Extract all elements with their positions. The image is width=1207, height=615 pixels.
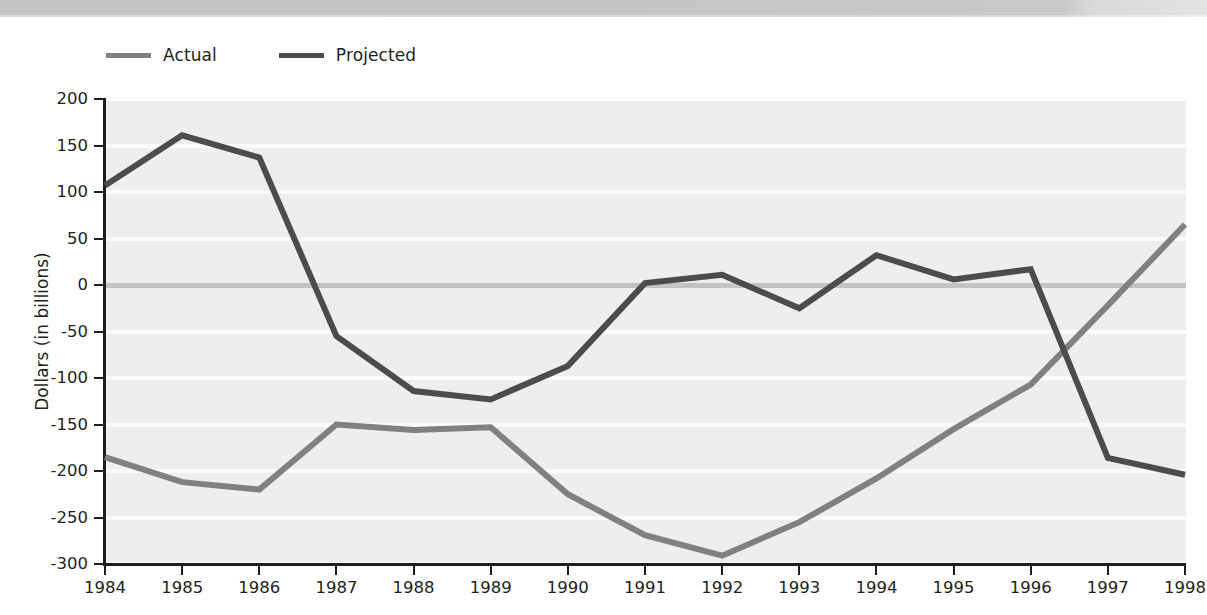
series-layer	[0, 0, 1207, 615]
series-line-projected	[105, 135, 1185, 474]
series-line-actual	[105, 225, 1185, 556]
line-chart: 200150100500-50-100-150-200-250-300 1984…	[0, 0, 1207, 615]
